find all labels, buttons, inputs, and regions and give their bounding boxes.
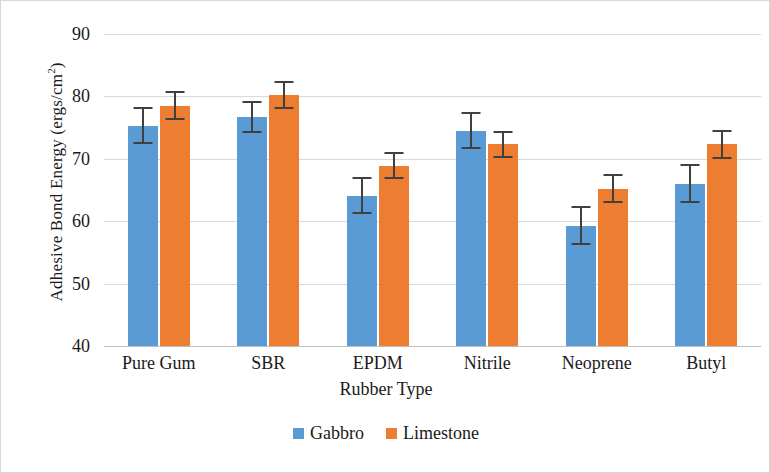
legend-label: Gabbro <box>310 423 364 444</box>
bar-gabbro <box>237 117 267 346</box>
y-axis-title-exponent: 2 <box>45 68 57 74</box>
error-bar-cap-top <box>603 174 622 176</box>
bar-limestone <box>160 106 190 346</box>
error-bar-cap-top <box>384 152 403 154</box>
legend-item[interactable]: Limestone <box>386 423 479 444</box>
bar-group <box>675 34 737 346</box>
bar-gabbro <box>675 184 705 346</box>
y-axis-title: Adhesive Bond Energy (ergs/cm2) <box>45 32 67 332</box>
error-bar-cap-top <box>462 112 481 114</box>
x-axis-tick-label: SBR <box>251 353 285 374</box>
gridline <box>104 221 761 222</box>
error-bar-cap-bottom <box>243 131 262 133</box>
error-bar-cap-top <box>165 91 184 93</box>
bar-group <box>456 34 518 346</box>
error-bar-gabbro <box>237 101 267 133</box>
error-bar-cap-bottom <box>352 212 371 214</box>
legend-swatch-icon <box>386 428 397 439</box>
error-bar-limestone <box>379 152 409 179</box>
error-bar-cap-top <box>133 107 152 109</box>
error-bar-cap-top <box>275 81 294 83</box>
y-axis-tick-label: 90 <box>72 25 90 43</box>
error-bar-cap-bottom <box>571 243 590 245</box>
error-bar-limestone <box>269 81 299 108</box>
error-bar-cap-bottom <box>713 157 732 159</box>
y-axis-tick-label: 40 <box>72 337 90 355</box>
legend-label: Limestone <box>403 423 479 444</box>
error-bar-stem <box>251 101 253 133</box>
plot-area: 405060708090 <box>104 34 761 346</box>
bar-group <box>237 34 299 346</box>
error-bar-cap-top <box>681 164 700 166</box>
error-bar-gabbro <box>347 177 377 214</box>
error-bar-cap-bottom <box>133 142 152 144</box>
bar-group <box>128 34 190 346</box>
x-axis-line <box>104 346 761 347</box>
error-bar-stem <box>502 131 504 158</box>
error-bar-cap-bottom <box>681 201 700 203</box>
error-bar-cap-bottom <box>384 177 403 179</box>
error-bar-cap-top <box>571 206 590 208</box>
y-axis-tick-label: 50 <box>72 275 90 293</box>
error-bar-cap-bottom <box>462 147 481 149</box>
bar-limestone <box>707 144 737 346</box>
error-bar-stem <box>283 81 285 108</box>
bar-limestone <box>488 144 518 346</box>
error-bar-limestone <box>488 131 518 158</box>
gridline <box>104 34 761 35</box>
error-bar-cap-bottom <box>494 156 513 158</box>
error-bar-gabbro <box>456 112 486 149</box>
x-axis-title: Rubber Type <box>1 379 770 400</box>
chart-legend: GabbroLimestone <box>1 423 770 444</box>
error-bar-stem <box>580 206 582 245</box>
error-bar-gabbro <box>566 206 596 245</box>
bar-chart-figure: Adhesive Bond Energy (ergs/cm2) 40506070… <box>0 0 770 473</box>
error-bar-cap-bottom <box>165 118 184 120</box>
error-bar-stem <box>174 91 176 120</box>
x-axis-tick-label: Neoprene <box>562 353 632 374</box>
x-axis-tick-label: Nitrile <box>464 353 511 374</box>
x-axis-tick-label: EPDM <box>353 353 403 374</box>
error-bar-cap-top <box>494 131 513 133</box>
error-bar-stem <box>361 177 363 214</box>
bar-gabbro <box>128 126 158 346</box>
gridline <box>104 96 761 97</box>
error-bar-stem <box>142 107 144 144</box>
error-bar-cap-top <box>243 101 262 103</box>
bar-gabbro <box>456 131 486 346</box>
legend-item[interactable]: Gabbro <box>293 423 364 444</box>
error-bar-limestone <box>598 174 628 203</box>
bar-gabbro <box>347 196 377 346</box>
error-bar-gabbro <box>128 107 158 144</box>
error-bar-stem <box>721 130 723 159</box>
error-bar-gabbro <box>675 164 705 203</box>
y-axis-tick-label: 70 <box>72 150 90 168</box>
error-bar-stem <box>689 164 691 203</box>
bar-limestone <box>379 166 409 346</box>
bar-limestone <box>598 189 628 346</box>
gridline <box>104 159 761 160</box>
gridline <box>104 284 761 285</box>
error-bar-stem <box>612 174 614 203</box>
bar-group <box>347 34 409 346</box>
legend-swatch-icon <box>293 428 304 439</box>
bar-limestone <box>269 95 299 346</box>
error-bar-cap-top <box>713 130 732 132</box>
y-axis-title-main: Adhesive Bond Energy (ergs/cm <box>47 74 66 302</box>
y-axis-tick-label: 60 <box>72 212 90 230</box>
error-bar-limestone <box>707 130 737 159</box>
error-bar-stem <box>393 152 395 179</box>
y-axis-title-tail: ) <box>47 62 66 68</box>
error-bar-cap-bottom <box>275 107 294 109</box>
error-bar-cap-top <box>352 177 371 179</box>
bar-group <box>566 34 628 346</box>
error-bar-stem <box>470 112 472 149</box>
error-bar-cap-bottom <box>603 201 622 203</box>
x-axis-tick-label: Butyl <box>686 353 726 374</box>
x-axis-tick-label: Pure Gum <box>122 353 196 374</box>
y-axis-tick-label: 80 <box>72 87 90 105</box>
error-bar-limestone <box>160 91 190 120</box>
